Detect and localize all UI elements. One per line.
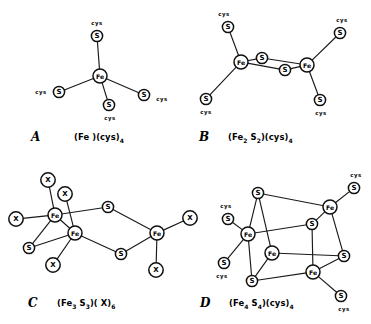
atom-fe-left: Fe bbox=[234, 55, 248, 69]
atom-s-lower-right: S bbox=[314, 94, 325, 105]
atom-x-top-a: X bbox=[41, 173, 55, 187]
atom-circle bbox=[246, 275, 257, 286]
atom-circle bbox=[149, 263, 163, 277]
atom-s-cys-lower-left: S bbox=[218, 257, 229, 268]
atom-fe-bottom-right: Fe bbox=[306, 265, 320, 279]
cysteine-label-cys-upper-right: cys bbox=[350, 172, 361, 179]
figure-root: FeSSSScyscyscyscysA(Fe )(cys)4FeFeSSSSSS… bbox=[0, 0, 371, 324]
atom-fe-upper-left: Fe bbox=[48, 208, 62, 222]
atom-circle bbox=[9, 212, 23, 226]
atom-fe-right: Fe bbox=[150, 226, 164, 240]
panel-formula-b: (Fe2 S2)(cys)4 bbox=[228, 132, 293, 144]
panel-letter-c: C bbox=[28, 296, 38, 310]
cysteine-label-cys-upper-right: cys bbox=[336, 17, 347, 24]
cysteine-label-cys-lower-right: cys bbox=[338, 306, 349, 313]
bond-fe-upper-left-to-x-far-left bbox=[23, 216, 49, 219]
atom-fe-right: Fe bbox=[300, 58, 314, 72]
bond-fe-upper-left-to-x-top-a bbox=[49, 186, 53, 208]
bond-fe-lower-left-to-s-bottom-bridge bbox=[81, 236, 117, 252]
bond-fe-right-to-s-lower-right bbox=[309, 71, 318, 95]
atom-circle bbox=[53, 86, 64, 97]
panel-formula-c: (Fe3 S3)( X)6 bbox=[57, 298, 116, 310]
atom-x-top-b: X bbox=[58, 187, 72, 201]
atom-circle bbox=[183, 211, 197, 225]
atom-circle bbox=[222, 21, 233, 32]
atom-circle bbox=[41, 173, 55, 187]
atom-fe-center: Fe bbox=[265, 246, 279, 260]
atom-circle bbox=[68, 226, 82, 240]
cysteine-label-cys-lower-right: cys bbox=[315, 110, 326, 117]
bond-s-top-to-fe-top-right bbox=[263, 194, 324, 206]
bond-fe-right-to-x-right-upper bbox=[163, 221, 184, 231]
atom-fe-left: Fe bbox=[241, 227, 255, 241]
bond-fe-right-to-s-bridge-top bbox=[267, 59, 301, 64]
atom-s-bottom: S bbox=[246, 275, 257, 286]
bond-s-mid-to-fe-bottom-right bbox=[312, 229, 313, 266]
atom-fe-top-right: Fe bbox=[323, 200, 337, 214]
atom-s-bottom-bridge: S bbox=[115, 248, 126, 259]
bond-s-bottom-to-fe-center bbox=[255, 258, 268, 277]
iron-sulfur-cluster-diagram: FeSSSScyscyscyscysA(Fe )(cys)4FeFeSSSSSS… bbox=[0, 0, 371, 324]
bond-fe-upper-left-to-s-left-low bbox=[32, 220, 51, 244]
atom-circle bbox=[323, 200, 337, 214]
bond-fe-left-to-s-upper-left bbox=[230, 32, 239, 56]
bond-fe-right-to-s-upper-right bbox=[312, 36, 337, 60]
cysteine-label-cys-top: cys bbox=[91, 20, 102, 27]
atom-circle bbox=[58, 187, 72, 201]
atom-s-left-low: S bbox=[23, 242, 34, 253]
bond-fe-left-to-s-bridge-top bbox=[247, 59, 257, 61]
bond-s-top-to-fe-center bbox=[259, 198, 270, 247]
atom-circle bbox=[23, 242, 34, 253]
cysteine-label-cys-lower-left: cys bbox=[216, 273, 227, 280]
atom-circle bbox=[93, 69, 107, 83]
bond-group bbox=[209, 32, 336, 96]
panel-b: FeFeSSSSSScyscyscyscysB(Fe2 S2)(cys)4 bbox=[198, 11, 348, 144]
bond-s-top-bridge-to-fe-right bbox=[112, 209, 151, 230]
bond-fe-center-to-s-top bbox=[97, 41, 99, 70]
panel-formula-d: (Fe4 S4)(cys)4 bbox=[229, 298, 294, 310]
bond-fe-right-to-x-right-lower bbox=[156, 239, 157, 263]
panel-letter-a: A bbox=[30, 130, 40, 144]
atom-s-cys-upper-left: S bbox=[222, 213, 233, 224]
bond-s-mid-to-fe-top-right bbox=[316, 211, 326, 220]
bond-s-right-to-fe-top-right bbox=[332, 213, 343, 251]
bond-fe-lower-left-to-x-bottom-left bbox=[57, 238, 72, 259]
atom-circle bbox=[348, 182, 359, 193]
panel-formula-a: (Fe )(cys)4 bbox=[74, 132, 124, 144]
bond-s-top-to-fe-left bbox=[250, 198, 257, 228]
cysteine-label-cys-left: cys bbox=[35, 89, 46, 96]
atom-circle bbox=[234, 55, 248, 69]
bond-s-bottom-bridge-to-fe-right bbox=[125, 236, 151, 251]
bond-fe-upper-left-to-fe-lower-left bbox=[60, 219, 70, 228]
bond-fe-left-to-s-cys-upper-left bbox=[232, 222, 243, 230]
atom-circle bbox=[200, 93, 211, 104]
bond-fe-top-right-to-s-cys-upper-right bbox=[335, 191, 350, 203]
atom-circle bbox=[241, 227, 255, 241]
bond-fe-right-to-s-bridge-bottom bbox=[290, 66, 301, 68]
atom-s-bridge-bottom: S bbox=[279, 64, 290, 75]
atom-circle bbox=[218, 257, 229, 268]
atom-fe-lower-left: Fe bbox=[68, 226, 82, 240]
bond-group bbox=[23, 186, 184, 263]
atom-s-top-bridge: S bbox=[102, 201, 113, 212]
bond-s-bottom-to-fe-bottom-right bbox=[257, 273, 307, 280]
atom-s-top: S bbox=[91, 30, 102, 41]
atom-circle bbox=[48, 208, 62, 222]
bond-s-right-to-fe-bottom-right bbox=[319, 258, 340, 269]
atom-circle bbox=[138, 89, 149, 100]
atom-s-bridge-top: S bbox=[256, 52, 267, 63]
atom-x-far-left: X bbox=[9, 212, 23, 226]
bond-fe-bottom-right-to-s-cys-lower-right bbox=[318, 276, 337, 293]
panel-a: FeSSSScyscyscyscysA(Fe )(cys)4 bbox=[30, 20, 168, 144]
atom-circle bbox=[222, 213, 233, 224]
atom-s-mid: S bbox=[306, 218, 317, 229]
atom-s-upper-left: S bbox=[222, 21, 233, 32]
atom-circle bbox=[306, 265, 320, 279]
bond-s-mid-to-fe-left bbox=[254, 225, 307, 233]
atom-circle bbox=[103, 99, 114, 110]
bond-fe-center-to-s-left bbox=[64, 78, 94, 90]
atom-circle bbox=[102, 201, 113, 212]
bond-s-right-to-fe-center bbox=[278, 253, 339, 256]
atom-circle bbox=[265, 246, 279, 260]
atom-s-right: S bbox=[338, 250, 349, 261]
